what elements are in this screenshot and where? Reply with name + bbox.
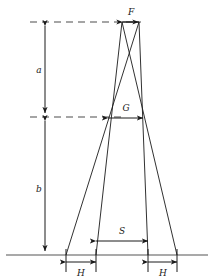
technical-diagram: a b F G S H H [0,0,214,280]
dimension-label-f: F [127,7,135,17]
dimension-label-b: b [36,184,42,194]
outer-right-leg [122,22,177,255]
inner-left-leg [96,22,122,255]
dimension-label-h-left: H [76,268,85,278]
figure-container: a b F G S H H [0,0,214,280]
inner-right-leg [139,22,148,255]
outer-left-leg [66,22,139,255]
dimension-label-h-right: H [158,268,167,278]
dimension-label-s: S [119,226,125,236]
dimension-label-a: a [36,65,41,75]
dimension-label-g: G [122,103,129,113]
